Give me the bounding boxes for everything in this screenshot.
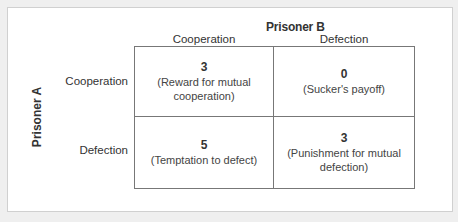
payoff-description: (Temptation to defect) xyxy=(151,153,257,167)
cell-cooperate-cooperate: 3 (Reward for mutual cooperation) xyxy=(135,47,274,117)
row-header-defection: Defection xyxy=(60,144,128,156)
payoff-matrix: 3 (Reward for mutual cooperation) 0 (Suc… xyxy=(134,46,415,189)
payoff-value: 5 xyxy=(201,138,208,152)
column-player-label: Prisoner B xyxy=(266,20,325,34)
payoff-value: 0 xyxy=(341,67,348,81)
column-header-defection: Defection xyxy=(274,33,414,45)
payoff-value: 3 xyxy=(341,131,348,145)
cell-defect-cooperate: 5 (Temptation to defect) xyxy=(135,117,274,188)
column-header-cooperation: Cooperation xyxy=(134,33,274,45)
payoff-description: (Reward for mutual cooperation) xyxy=(141,75,267,103)
row-player-label: Prisoner A xyxy=(30,87,44,147)
payoff-description: (Punishment for mutual defection) xyxy=(280,146,408,174)
row-header-cooperation: Cooperation xyxy=(60,75,128,87)
cell-defect-defect: 3 (Punishment for mutual defection) xyxy=(274,117,414,188)
cell-cooperate-defect: 0 (Sucker's payoff) xyxy=(274,47,414,117)
payoff-description: (Sucker's payoff) xyxy=(303,82,385,96)
payoff-value: 3 xyxy=(201,60,208,74)
